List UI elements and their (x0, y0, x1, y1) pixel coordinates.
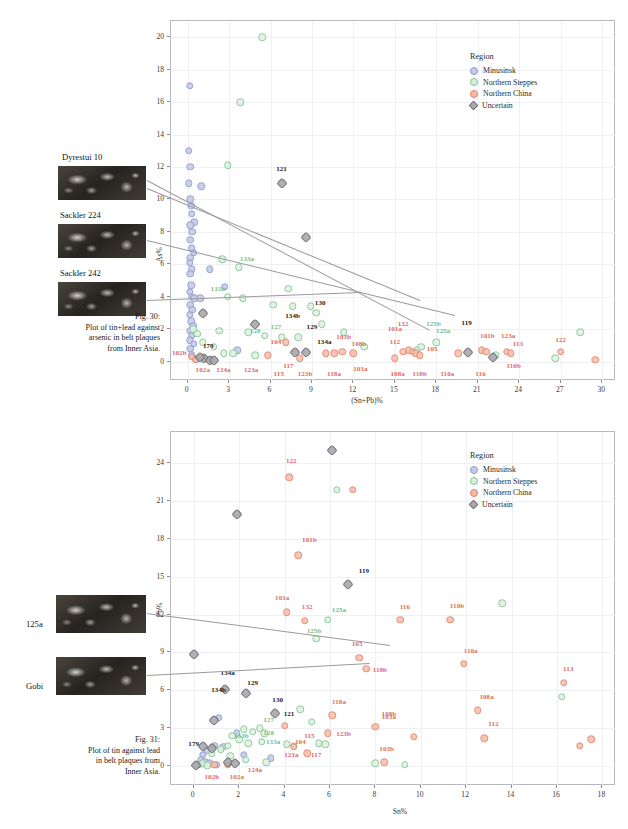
x-tick-mark (556, 785, 557, 788)
gridline-horizontal (171, 70, 616, 71)
point-label: 113 (513, 340, 523, 348)
data-point-northern-china (301, 617, 309, 625)
data-point-northern-china (507, 350, 515, 358)
y-tick-mark (167, 166, 170, 167)
point-label: 123a (244, 366, 258, 374)
data-point-northern-steppes (258, 33, 266, 41)
legend-swatch-northern-steppes (470, 78, 478, 86)
gridline-horizontal (171, 167, 616, 168)
legend-item-northern-steppes[interactable]: Northern Steppes (470, 476, 537, 488)
x-tick-mark (352, 380, 353, 383)
legend-label: Uncertain (482, 500, 513, 509)
gridline-vertical (353, 21, 354, 381)
scatter-plot-tin-vs-lead: 122101b119101a132125a125b116110b105118b1… (170, 431, 615, 785)
data-point-uncertain (276, 178, 287, 189)
gridline-horizontal (171, 615, 616, 616)
legend-item-minusinsk[interactable]: Minusinsk (470, 464, 537, 476)
y-tick-label: 21 (146, 496, 164, 505)
data-point-northern-china (281, 722, 289, 730)
caption-line: Inner Asia. (18, 767, 160, 778)
legend-item-northern-china[interactable]: Northern China (470, 88, 537, 100)
data-point-northern-china (303, 749, 311, 757)
data-point-uncertain (301, 231, 312, 242)
point-label: 102a (196, 366, 210, 374)
y-tick-label: 9 (146, 647, 164, 656)
gridline-vertical (375, 432, 376, 786)
x-tick-mark (329, 785, 330, 788)
gridline-horizontal (171, 463, 616, 464)
gridline-horizontal (171, 232, 616, 233)
x-tick-mark (560, 380, 561, 383)
data-point-northern-china (210, 761, 218, 769)
legend-region-fig30: Region Minusinsk Northern Steppes Northe… (470, 52, 537, 111)
legend-title: Region (470, 451, 537, 460)
x-tick-mark (601, 380, 602, 383)
legend-item-uncertain[interactable]: Uncertain (470, 100, 537, 112)
point-label: 123a (284, 751, 298, 759)
gridline-vertical (557, 432, 558, 786)
data-point-northern-steppes (236, 98, 244, 106)
legend-item-uncertain[interactable]: Uncertain (470, 499, 537, 511)
point-label: 117 (283, 362, 293, 370)
y-tick-label: 16 (146, 97, 164, 106)
data-point-northern-steppes (235, 264, 243, 272)
data-point-northern-steppes (249, 728, 257, 736)
data-point-northern-steppes (499, 600, 507, 608)
point-label: 123b (336, 730, 351, 738)
point-label: 110b (450, 602, 464, 610)
y-tick-mark (167, 328, 170, 329)
data-point-northern-china (339, 348, 347, 356)
legend-item-northern-steppes[interactable]: Northern Steppes (470, 77, 537, 89)
data-point-uncertain (232, 509, 243, 520)
data-point-northern-steppes (401, 761, 409, 769)
y-tick-label: 2 (146, 324, 164, 333)
x-axis-title-fig31: Sn% (393, 807, 407, 816)
legend-item-minusinsk[interactable]: Minusinsk (470, 65, 537, 77)
artifact-image-dyrestui-10 (58, 166, 146, 200)
x-tick-label: 3 (226, 385, 230, 394)
data-point-northern-steppes (220, 350, 228, 358)
legend-label: Minusinsk (483, 66, 516, 75)
data-point-northern-steppes (318, 320, 326, 328)
data-point-northern-steppes (217, 746, 225, 754)
x-tick-label: 4 (282, 790, 286, 799)
point-label: 110a (464, 647, 478, 655)
point-label: 123b (298, 370, 313, 378)
gridline-horizontal (171, 199, 616, 200)
x-tick-label: 6 (327, 790, 331, 799)
y-tick-mark (167, 500, 170, 501)
gridline-vertical (421, 432, 422, 786)
data-point-minusinsk (185, 179, 193, 187)
data-point-northern-steppes (263, 758, 271, 766)
legend-item-northern-china[interactable]: Northern China (470, 487, 537, 499)
x-tick-mark (238, 785, 239, 788)
data-point-northern-steppes (558, 693, 566, 701)
x-tick-mark (270, 380, 271, 383)
data-point-northern-steppes (258, 738, 266, 746)
point-label: 128 (263, 729, 274, 737)
x-tick-mark (187, 380, 188, 383)
point-label: 110b (507, 362, 521, 370)
point-label: 179 (188, 740, 199, 748)
legend-label: Northern China (483, 488, 532, 497)
data-point-northern-steppes (312, 309, 320, 317)
x-tick-mark (511, 785, 512, 788)
point-label: 129 (307, 323, 318, 331)
legend-swatch-northern-steppes (470, 477, 478, 485)
y-tick-mark (167, 462, 170, 463)
data-point-northern-china (363, 665, 371, 673)
point-label: 102a (230, 773, 244, 781)
caption-line: arsenic in belt plaques (18, 333, 160, 344)
point-label: 134b (211, 686, 226, 694)
point-label: 132 (302, 603, 313, 611)
data-point-minusinsk (198, 183, 206, 191)
gridline-horizontal (171, 766, 616, 767)
point-label: 128 (250, 327, 261, 335)
point-label: 125a (436, 327, 450, 335)
x-tick-label: 14 (507, 790, 515, 799)
gridline-vertical (466, 432, 467, 786)
data-point-northern-steppes (229, 350, 237, 358)
data-point-uncertain (463, 346, 474, 357)
gridline-vertical (194, 432, 195, 786)
point-label: 121 (284, 710, 295, 718)
